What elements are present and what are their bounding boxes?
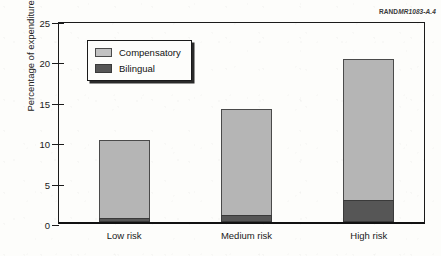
y-axis-tick-mark xyxy=(52,63,59,64)
y-axis-tick-mark xyxy=(52,144,59,145)
y-axis-tick-mark xyxy=(52,104,59,105)
bar-segment-bilingual xyxy=(99,218,150,222)
bar-low-risk xyxy=(99,140,150,222)
figure-stacked-bar-chart: RANDMR1083-A.4 Percentage of expenditure… xyxy=(0,0,441,256)
y-axis-tick-mark-inner xyxy=(59,63,64,64)
y-axis-tick-mark-inner xyxy=(59,185,64,186)
bar-segment-bilingual xyxy=(343,200,394,222)
rand-report-number: MR1083-A.4 xyxy=(398,8,436,15)
chart-legend: Compensatory Bilingual xyxy=(87,40,192,81)
bar-segment-bilingual xyxy=(221,215,272,222)
rand-document-identifier: RANDMR1083-A.4 xyxy=(379,8,436,15)
legend-label-compensatory: Compensatory xyxy=(119,47,181,58)
y-axis-tick-label: 0 xyxy=(45,220,50,231)
x-axis-tick-label: Medium risk xyxy=(221,230,272,241)
legend-item-compensatory: Compensatory xyxy=(95,46,181,59)
legend-label-bilingual: Bilingual xyxy=(119,63,155,74)
x-axis-tick-label: Low risk xyxy=(107,230,142,241)
y-axis-title: Percentage of expenditures xyxy=(25,0,36,144)
light-gray-swatch-icon xyxy=(95,48,112,57)
legend-item-bilingual: Bilingual xyxy=(95,62,181,75)
y-axis-tick-mark xyxy=(52,225,59,226)
y-axis-tick-label: 15 xyxy=(39,98,50,109)
bar-medium-risk xyxy=(221,109,272,222)
x-axis-tick-label: High risk xyxy=(350,230,387,241)
rand-brand-text: RAND xyxy=(379,8,398,15)
y-axis-tick-mark xyxy=(52,185,59,186)
bar-segment-compensatory xyxy=(221,109,272,215)
y-axis-tick-mark-inner xyxy=(59,144,64,145)
bar-segment-compensatory xyxy=(99,140,150,218)
y-axis-tick-label: 5 xyxy=(45,179,50,190)
dark-gray-swatch-icon xyxy=(95,64,112,73)
y-axis-tick-mark-inner xyxy=(59,23,64,24)
plot-area: 0510152025 Low riskMedium riskHigh risk … xyxy=(58,22,425,224)
bar-segment-compensatory xyxy=(343,59,394,200)
y-axis-tick-label: 10 xyxy=(39,139,50,150)
y-axis-tick-label: 20 xyxy=(39,58,50,69)
y-axis-tick-mark xyxy=(52,23,59,24)
y-axis-tick-mark-inner xyxy=(59,104,64,105)
bar-high-risk xyxy=(343,59,394,222)
y-axis-tick-label: 25 xyxy=(39,18,50,29)
